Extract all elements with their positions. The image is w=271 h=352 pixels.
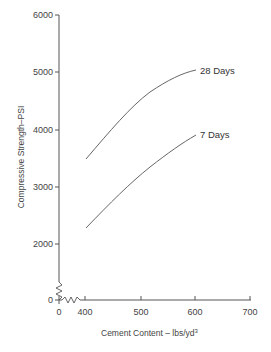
y-axis-title: Compressive Strength–PSI bbox=[16, 106, 26, 209]
chart: 6000 5000 4000 3000 2000 0 0 400 500 600… bbox=[0, 0, 271, 352]
y-tick-label: 2000 bbox=[33, 239, 53, 249]
x-tick-label: 0 bbox=[56, 307, 61, 317]
series-label-7-days: 7 Days bbox=[200, 129, 230, 140]
x-axis-title: Cement Content – lbs/yd3 bbox=[101, 328, 199, 338]
x-tick-label: 700 bbox=[242, 307, 257, 317]
x-tick-label: 500 bbox=[133, 307, 148, 317]
x-tick-label: 400 bbox=[77, 307, 92, 317]
x-axis-break-icon bbox=[62, 297, 80, 303]
series-label-28-days: 28 Days bbox=[200, 65, 235, 76]
y-tick-label: 3000 bbox=[33, 182, 53, 192]
y-tick-label: 5000 bbox=[33, 67, 53, 77]
x-tick-label: 600 bbox=[187, 307, 202, 317]
y-tick-label: 4000 bbox=[33, 125, 53, 135]
y-ticks bbox=[55, 15, 59, 300]
y-tick-label: 0 bbox=[48, 295, 53, 305]
y-tick-label: 6000 bbox=[33, 10, 53, 20]
series-7-days-line bbox=[86, 135, 196, 228]
